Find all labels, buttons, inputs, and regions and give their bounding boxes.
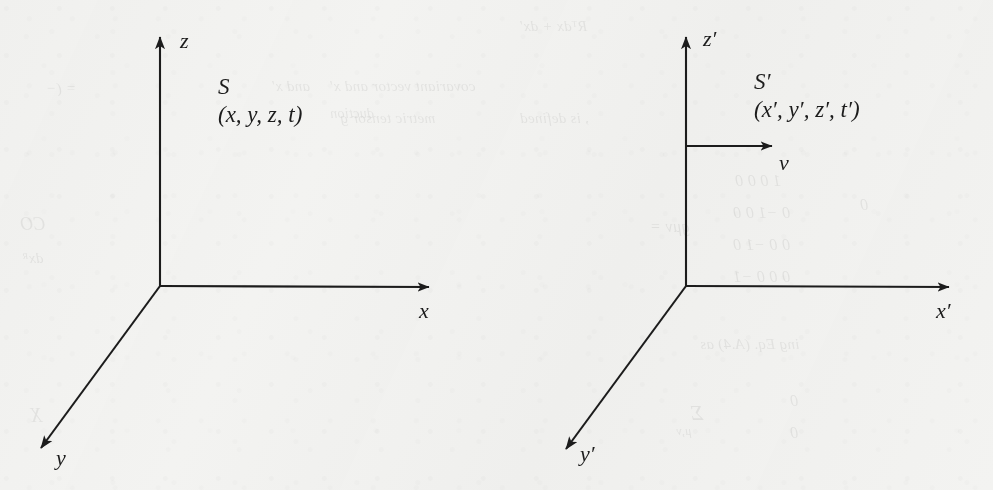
frame-name-s-prime: S′ xyxy=(754,68,860,96)
frame-coords-s-prime: (x′, y′, z′, t′) xyxy=(754,96,860,124)
frame-label-s: S (x, y, z, t) xyxy=(218,73,302,129)
axis-label-z-prime: z′ xyxy=(703,28,716,50)
frame-label-s-prime: S′ (x′, y′, z′, t′) xyxy=(754,68,860,124)
frame-name-s: S xyxy=(218,73,302,101)
axis-x-line xyxy=(160,286,429,287)
figure-canvas: Rᵀdx + dx′and x′= (−covariant vector and… xyxy=(0,0,993,490)
axis-label-x: x xyxy=(419,300,429,322)
axis-label-z: z xyxy=(180,30,189,52)
axis-x-prime-line xyxy=(686,286,949,287)
velocity-label-v: v xyxy=(779,152,789,174)
axis-label-y-prime: y′ xyxy=(580,443,595,465)
axis-y-line xyxy=(41,286,160,448)
frame-coords-s: (x, y, z, t) xyxy=(218,101,302,129)
axis-label-y: y xyxy=(56,447,66,469)
axis-y-prime-line xyxy=(566,286,686,449)
axis-label-x-prime: x′ xyxy=(936,300,951,322)
